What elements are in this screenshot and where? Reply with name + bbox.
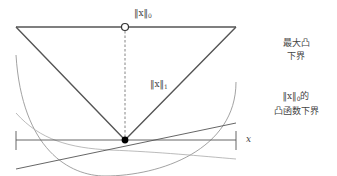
max-convex-lower-bound-line2: 下界 (276, 50, 316, 63)
l0-norm-label: ‖x‖0 (134, 8, 152, 19)
l0-convex-lower-bounds-label: ‖x‖0的 凸函数下界 (268, 90, 324, 118)
convex-envelope-diagram (0, 0, 337, 176)
l0-norm-text: ‖x‖ (134, 8, 148, 18)
x-axis-label-text: x (246, 134, 251, 144)
x-axis-label: x (246, 134, 251, 144)
l0-convex-suffix: 的 (300, 91, 309, 101)
l0-convex-lower-bounds-line1: ‖x‖0的 (268, 90, 324, 105)
l0-convex-norm-text: ‖x‖ (283, 91, 297, 101)
l1-norm-subscript: 1 (164, 83, 168, 90)
l0-value-at-zero-open-circle (122, 24, 129, 31)
convex-lower-bound-parabola (16, 55, 236, 176)
l0-convex-lower-bounds-line2: 凸函数下界 (268, 105, 324, 118)
max-convex-lower-bound-line1: 最大凸 (276, 37, 316, 50)
convex-lower-bound-decay (16, 113, 236, 159)
l1-norm-v (16, 27, 236, 140)
convex-lower-bound-linear (16, 123, 236, 169)
l1-norm-text: ‖x‖ (150, 79, 164, 89)
l1-norm-label: ‖x‖1 (150, 79, 168, 90)
l0-norm-subscript: 0 (148, 12, 152, 19)
origin-filled-point (122, 137, 129, 144)
max-convex-lower-bound-label: 最大凸 下界 (276, 37, 316, 63)
